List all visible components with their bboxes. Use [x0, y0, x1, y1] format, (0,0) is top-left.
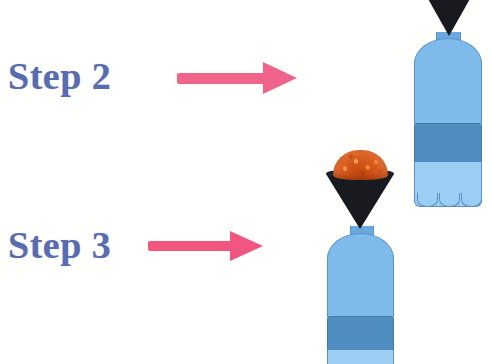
step-2-arrow-icon — [177, 62, 299, 94]
powder-heap — [333, 150, 388, 180]
step-3-label: Step 3 — [8, 226, 111, 264]
arrow-head — [263, 62, 297, 94]
instruction-diagram: Step 2 Step 3 — [0, 0, 492, 364]
bottle-body-upper — [414, 77, 482, 124]
arrow-shaft — [148, 241, 236, 251]
step-2-illustration — [406, 0, 492, 214]
arrow-shaft — [177, 73, 269, 84]
bottle-shoulder — [327, 233, 394, 274]
plastic-bottle — [406, 32, 492, 214]
bottle-body-upper — [327, 272, 394, 317]
bottle-body-lower — [414, 162, 482, 195]
bottle-base-lobe — [461, 193, 482, 207]
arrow-head — [230, 231, 263, 261]
bottle-body-lower — [327, 350, 394, 364]
bottle-base-lobe — [417, 193, 438, 207]
bottle-grip-band — [414, 123, 482, 165]
bottle-base-lobe — [439, 193, 460, 207]
funnel-icon — [326, 174, 394, 229]
bottle-base — [414, 194, 482, 207]
bottle-shoulder — [414, 38, 482, 79]
plastic-bottle — [320, 226, 404, 364]
step-3-arrow-icon — [148, 231, 266, 261]
step-3-illustration — [320, 152, 404, 364]
step-2-label: Step 2 — [8, 57, 111, 95]
bottle-grip-band — [327, 316, 394, 353]
funnel-icon — [414, 0, 484, 36]
